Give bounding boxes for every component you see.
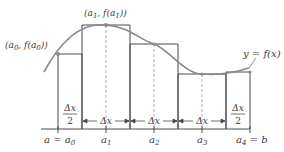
half-interval-left: Δx 2: [63, 103, 77, 126]
point-a3: [200, 72, 203, 75]
axis-label-a1: a1: [101, 134, 111, 147]
midpoint-dashes: [106, 25, 202, 129]
riemann-diagram: Δx 2 Δx 2 Δx Δx Δx a = a0 a1 a2 a3 a4 = …: [0, 0, 284, 152]
diagram-canvas: Δx 2 Δx 2 Δx Δx Δx a = a0 a1 a2 a3 a4 = …: [0, 0, 284, 152]
curve-label: y = f(x): [242, 48, 281, 59]
interval-label-3: Δx: [195, 116, 208, 126]
point-label-a0: (a0, f(a0)): [5, 40, 48, 52]
interval-label-2: Δx: [147, 116, 160, 126]
half-interval-right: Δx 2: [231, 103, 245, 126]
svg-text:Δx: Δx: [231, 103, 244, 113]
curve-label-leader: [249, 58, 256, 68]
point-a4: [248, 70, 251, 73]
svg-text:2: 2: [67, 116, 73, 126]
axis-label-a2: a2: [149, 134, 160, 147]
curve-f: [44, 25, 249, 75]
point-a2: [152, 42, 155, 45]
interval-label-1: Δx: [99, 116, 112, 126]
axis-label-a3: a3: [197, 134, 208, 147]
axis-label-a0: a = a0: [44, 134, 76, 147]
axis-label-a4: a4 = b: [236, 134, 268, 147]
svg-text:2: 2: [235, 116, 241, 126]
point-a1: [104, 23, 108, 27]
point-a0: [56, 52, 60, 56]
svg-text:Δx: Δx: [63, 103, 76, 113]
point-label-a1: (a1, f(a1)): [84, 8, 127, 20]
